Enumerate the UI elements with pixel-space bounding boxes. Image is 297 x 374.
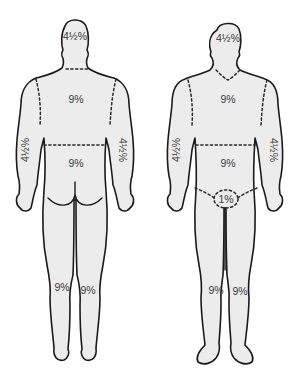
posterior-lower-trunk-label: 9% <box>68 157 83 169</box>
anterior-right-leg-label: 9% <box>232 285 247 297</box>
anterior-lower-trunk-label: 9% <box>220 157 235 169</box>
posterior-head-label: 4½% <box>63 30 87 42</box>
posterior-right-leg-label: 9% <box>80 284 95 296</box>
figure-posterior: 4½% 9% 9% 4½% 4½% 9% 9% <box>16 20 133 360</box>
anterior-upper-trunk-label: 9% <box>220 93 235 105</box>
anterior-perineum-label: 1% <box>218 193 233 205</box>
anterior-head-label: 4½% <box>216 32 240 44</box>
anterior-right-arm-label: 4½% <box>268 138 280 162</box>
posterior-right-arm-label: 4½% <box>117 138 129 162</box>
posterior-left-arm-label: 4½% <box>19 138 31 162</box>
anterior-left-leg-label: 9% <box>208 284 223 296</box>
posterior-upper-trunk-label: 9% <box>68 93 83 105</box>
figure-anterior: 4½% 9% 9% 4½% 4½% 1% 9% 9% <box>167 23 282 363</box>
rule-of-nines-diagram: 4½% 9% 9% 4½% 4½% 9% 9% 4½% 9% 9% 4½% 4½… <box>0 0 297 374</box>
posterior-left-leg-label: 9% <box>54 281 69 293</box>
anterior-left-arm-label: 4½% <box>170 138 182 162</box>
